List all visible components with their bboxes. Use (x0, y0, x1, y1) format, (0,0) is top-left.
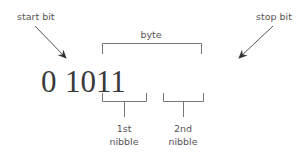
nibble2-label: 2nd nibble (168, 122, 197, 148)
stop-bit-arrow (239, 26, 273, 58)
start-bit-label: start bit (17, 12, 55, 22)
nibble2-label-line2: nibble (168, 135, 197, 148)
nibble1-label: 1st nibble (109, 122, 138, 148)
byte-label: byte (140, 30, 161, 40)
nibble1-label-line2: nibble (109, 135, 138, 148)
nibble2-label-line1: 2nd (168, 122, 197, 135)
start-bit-arrow (35, 26, 66, 58)
nibble2-bracket (164, 93, 204, 117)
stop-bit-label: stop bit (256, 12, 292, 22)
nibble1-label-line1: 1st (109, 122, 138, 135)
bit-start: 0 (41, 66, 57, 97)
bits-nibble1: 1011 (65, 66, 127, 97)
byte-bracket (103, 44, 202, 55)
